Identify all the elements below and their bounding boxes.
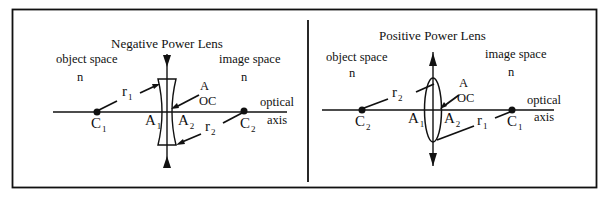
leader-line <box>182 134 201 142</box>
center-label-right: C2 <box>240 116 256 131</box>
refractive-index-right: n <box>241 71 247 84</box>
apex-label-oc: OC <box>199 95 216 108</box>
vertex-label-right: A2 <box>444 111 460 126</box>
arrowhead-icon <box>176 139 185 145</box>
refractive-index-left: n <box>77 71 83 84</box>
panel-title: Positive Power Lens <box>379 29 486 42</box>
arrowhead-icon <box>152 84 160 89</box>
optical-axis-label-line2: axis <box>267 114 287 127</box>
positive-lens-panel <box>322 52 554 166</box>
radius-label-lower: r2 <box>205 119 216 134</box>
leader-line <box>140 86 155 93</box>
apex-label-oc: OC <box>457 92 474 105</box>
apex-label-a: A <box>459 77 468 90</box>
leader-line <box>176 95 199 107</box>
vertex-label-left: A1 <box>145 113 161 128</box>
negative-lens-panel <box>53 54 287 168</box>
leader-line <box>99 101 117 110</box>
arrowhead-up-icon <box>429 53 437 66</box>
apex-label-a: A <box>200 80 209 93</box>
refractive-index-right: n <box>508 66 514 79</box>
object-space-label: object space <box>56 53 117 66</box>
optical-axis-label-line1: optical <box>260 96 294 109</box>
arrowhead-down-icon <box>429 153 437 166</box>
radius-label-lower: r1 <box>477 113 488 128</box>
radius-label-upper: r1 <box>122 84 133 99</box>
diagram-canvas <box>0 0 605 198</box>
vertex-label-left: A1 <box>408 111 424 126</box>
optical-axis-label-line2: axis <box>534 111 554 124</box>
center-label-left: C1 <box>91 116 107 131</box>
leader-line <box>416 84 434 92</box>
image-space-label: image space <box>485 48 546 61</box>
vertex-label-right: A2 <box>178 113 194 128</box>
refractive-index-left: n <box>349 67 355 80</box>
object-space-label: object space <box>326 51 387 64</box>
optical-axis-label-line1: optical <box>527 94 561 107</box>
leader-line <box>364 99 388 108</box>
center-label-right: C1 <box>507 114 523 129</box>
arrowhead-up-icon <box>163 156 171 168</box>
outer-frame <box>13 10 597 188</box>
image-space-label: image space <box>219 53 280 66</box>
panel-title: Negative Power Lens <box>111 37 223 50</box>
center-label-left: C2 <box>355 114 371 129</box>
radius-label-upper: r2 <box>392 85 403 100</box>
arrowhead-down-icon <box>163 55 171 67</box>
